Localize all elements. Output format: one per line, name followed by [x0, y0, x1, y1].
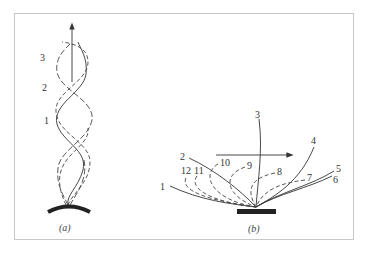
label-b-2: 2	[180, 151, 185, 162]
label-a-3: 3	[40, 52, 45, 63]
label-b-8: 8	[277, 166, 282, 177]
panel-a: 3 2 1 (a)	[40, 26, 92, 234]
curve-b-4	[256, 147, 314, 207]
curve-b-3	[256, 119, 261, 207]
curve-b-12	[185, 178, 256, 207]
label-b-3: 3	[255, 109, 260, 120]
label-b-4: 4	[311, 135, 316, 146]
base-plate-b	[237, 209, 276, 214]
label-a-2: 2	[42, 82, 47, 93]
label-b-5: 5	[336, 163, 341, 174]
panel-b: 1 2 3 4 5 6 7 8 9 10 11 12 (b)	[160, 109, 341, 235]
label-a-1: 1	[44, 115, 49, 126]
label-b-6: 6	[333, 174, 338, 185]
label-b-10: 10	[220, 157, 230, 168]
label-b-1: 1	[160, 181, 165, 192]
helix-1	[56, 42, 86, 205]
label-b-9: 9	[247, 160, 252, 171]
curve-b-6	[256, 176, 332, 207]
label-b-12: 12	[181, 165, 191, 176]
helix-3	[56, 42, 90, 205]
base-plate-a	[48, 207, 90, 213]
label-b-11: 11	[194, 165, 204, 176]
caption-b: (b)	[248, 223, 260, 235]
caption-a: (a)	[59, 222, 71, 234]
figure-svg: 3 2 1 (a) 1 2 3 4 5 6 7 8 9 10 11	[0, 0, 367, 253]
label-b-7: 7	[307, 172, 312, 183]
